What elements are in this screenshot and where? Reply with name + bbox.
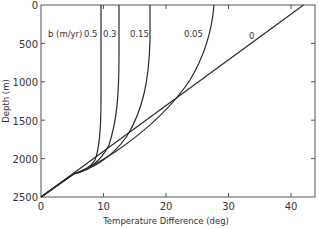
x-axis-title: Temperature Difference (deg) bbox=[102, 216, 229, 226]
x-tick-label: 30 bbox=[222, 201, 235, 212]
x-tick-label: 10 bbox=[97, 201, 110, 212]
y-tick-label: 1000 bbox=[13, 77, 38, 88]
curve-label-0-15: 0.15 bbox=[130, 29, 149, 39]
x-tick-label: 20 bbox=[160, 201, 173, 212]
y-axis-title: Depth (m) bbox=[1, 79, 11, 123]
chart: 0 10 20 30 40 0 500 1000 1500 2000 2500 … bbox=[0, 0, 319, 229]
curve-label-0-3: 0.3 bbox=[103, 29, 117, 39]
legend-title: b (m/yr) bbox=[48, 29, 82, 39]
curve-label-0-05: 0.05 bbox=[184, 29, 203, 39]
y-tick-label: 0 bbox=[32, 0, 38, 11]
y-tick-label: 1500 bbox=[13, 116, 38, 127]
y-axis bbox=[41, 43, 315, 158]
y-tick-label: 500 bbox=[19, 39, 38, 50]
curve-label-0: 0 bbox=[249, 31, 254, 41]
x-tick-label: 40 bbox=[285, 201, 298, 212]
curve-label-0-5: 0.5 bbox=[84, 29, 98, 39]
y-tick-label: 2500 bbox=[13, 192, 38, 203]
y-tick-label: 2000 bbox=[13, 154, 38, 165]
x-tick-label: 0 bbox=[38, 201, 44, 212]
